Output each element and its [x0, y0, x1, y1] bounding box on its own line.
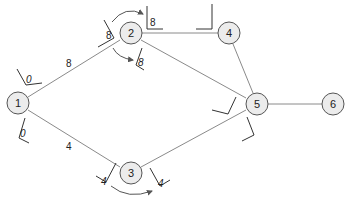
node-label: 4 — [226, 27, 232, 39]
diagram-svg: 8 4 0 0 8 8 8 4 4 1 2 3 4 5 6 — [0, 0, 352, 202]
node-label: 6 — [330, 98, 336, 110]
edge-3-5 — [141, 110, 246, 167]
node-6[interactable]: 6 — [322, 93, 344, 115]
node-label: 1 — [15, 97, 21, 109]
mark-2-out-top: 8 — [150, 17, 156, 28]
arrow-2-bottom — [113, 48, 133, 60]
edge-4-5 — [233, 44, 253, 93]
edge-1-2 — [28, 40, 120, 97]
node-5[interactable]: 5 — [246, 93, 268, 115]
mark-2-in: 8 — [106, 30, 112, 41]
node-1[interactable]: 1 — [7, 92, 29, 114]
edge-2-5 — [141, 40, 246, 98]
node-label: 3 — [128, 167, 134, 179]
mark-bracket-4 — [196, 4, 212, 29]
edge-weight-1-2: 8 — [66, 58, 72, 69]
node-label: 2 — [128, 27, 134, 39]
arrow-2-top — [112, 11, 143, 22]
mark-3-in: 4 — [101, 176, 107, 187]
node-3[interactable]: 3 — [120, 162, 142, 184]
edge-1-3 — [28, 110, 120, 167]
node-4[interactable]: 4 — [218, 22, 240, 44]
edge-weight-1-3: 4 — [66, 141, 72, 152]
mark-1-bottom: 0 — [20, 128, 26, 139]
mark-1-top: 0 — [26, 74, 32, 85]
mark-bracket-5-bottom — [242, 117, 254, 141]
node-2[interactable]: 2 — [120, 22, 142, 44]
arrow-3 — [111, 186, 152, 195]
network-diagram: 8 4 0 0 8 8 8 4 4 1 2 3 4 5 6 — [0, 0, 352, 202]
node-label: 5 — [254, 98, 260, 110]
mark-3-out: 4 — [158, 178, 164, 189]
mark-bracket-5-top — [212, 97, 236, 114]
mark-2-out-bottom: 8 — [138, 57, 144, 68]
